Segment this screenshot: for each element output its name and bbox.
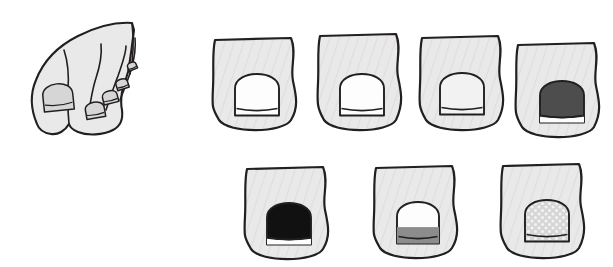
top-row	[213, 34, 600, 137]
toe-normal-pale-2[interactable]	[318, 34, 402, 130]
bottom-row	[245, 164, 585, 267]
toe-normal-pale-3[interactable]	[420, 36, 504, 130]
foot-body	[32, 23, 134, 135]
toe-gray-band-nail[interactable]	[374, 166, 458, 267]
illustration-canvas	[0, 0, 613, 267]
great-toe-nail	[42, 82, 75, 112]
toe-black-nail[interactable]	[245, 167, 329, 259]
foot-illustration	[32, 23, 138, 135]
toenail-illustration-figure	[0, 0, 613, 267]
nail-plate	[42, 82, 75, 112]
toe-speckled-nail[interactable]	[501, 164, 585, 258]
toe-dark-gray-nail[interactable]	[516, 43, 600, 137]
toe-normal-pale-1[interactable]	[213, 38, 297, 130]
